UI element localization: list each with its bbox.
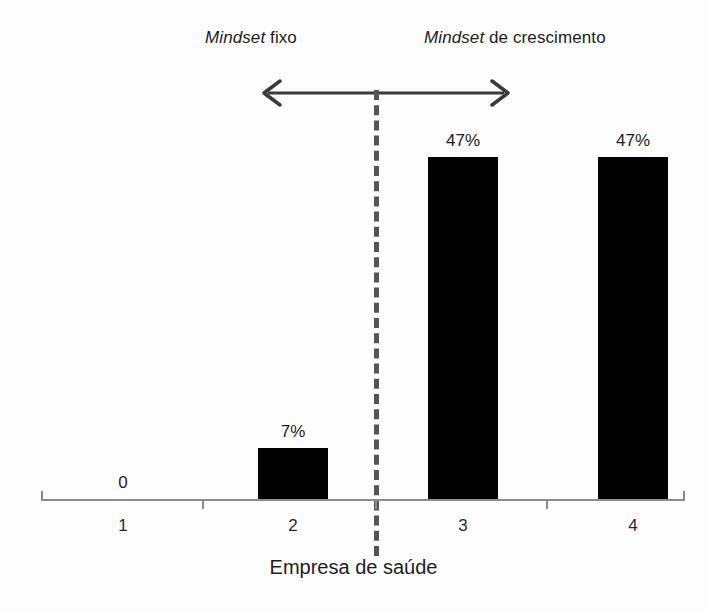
x-tick-label-4: 4 [588, 516, 678, 536]
x-axis-tick-1 [202, 500, 204, 509]
value-label-category-2: 7% [248, 422, 338, 442]
bars-layer [0, 0, 707, 499]
x-tick-label-2: 2 [248, 516, 338, 536]
x-axis-cap-left [41, 491, 43, 500]
value-label-category-4: 47% [588, 131, 678, 151]
x-axis-cap-right [683, 491, 685, 500]
bar-category-2 [258, 448, 328, 499]
x-axis-title: Empresa de saúde [0, 556, 707, 579]
bar-category-4 [598, 157, 668, 499]
bar-category-3 [428, 157, 498, 499]
x-axis-tick-2 [375, 500, 377, 509]
x-axis-tick-3 [546, 500, 548, 509]
value-label-category-3: 47% [418, 131, 508, 151]
x-tick-label-3: 3 [418, 516, 508, 536]
x-tick-label-1: 1 [78, 516, 168, 536]
bar-chart-figure: Mindset fixo Mindset de crescimento 0 7%… [0, 0, 707, 612]
x-axis-line [41, 499, 685, 501]
value-label-category-1: 0 [78, 473, 168, 493]
